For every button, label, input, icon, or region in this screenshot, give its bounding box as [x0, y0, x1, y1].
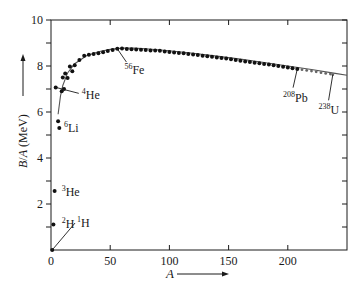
data-point: [82, 54, 86, 58]
y-axis-label: B/A (MeV): [16, 54, 30, 168]
data-point: [96, 51, 100, 55]
data-point: [196, 53, 200, 57]
data-point: [144, 48, 148, 52]
annotation-label: 2H: [62, 216, 75, 231]
data-point: [243, 59, 247, 63]
annotation-label: 4He: [82, 87, 100, 102]
annotation-2H: 2H: [62, 216, 75, 231]
data-point: [215, 56, 219, 60]
data-point: [257, 61, 261, 65]
data-point: [163, 50, 167, 54]
x-axis-label-text: A: [165, 266, 174, 281]
data-point: [186, 52, 190, 56]
y-tick-label: 8: [37, 59, 43, 73]
data-point: [101, 50, 105, 54]
data-point: [63, 71, 67, 75]
data-point: [210, 55, 214, 59]
annotation-leader: [293, 69, 297, 88]
data-point: [272, 63, 276, 67]
data-point: [56, 119, 60, 123]
data-point: [182, 51, 186, 55]
data-point: [61, 76, 65, 80]
data-point: [158, 49, 162, 53]
annotation-leader: [329, 75, 333, 101]
data-point: [139, 48, 143, 52]
x-axis-arrowhead-icon: [222, 272, 229, 277]
data-point: [220, 56, 224, 60]
data-point: [324, 72, 327, 75]
data-point: [177, 51, 181, 55]
annotation-leader: [56, 87, 79, 93]
annotation-leader: [117, 49, 126, 62]
data-point: [153, 49, 157, 53]
data-point: [281, 65, 285, 69]
data-point: [172, 50, 176, 54]
data-point: [238, 59, 242, 63]
x-tick-label: 50: [104, 254, 116, 268]
data-point: [87, 53, 91, 57]
annotation-label: 1H: [77, 215, 90, 230]
annotation-label: 208Pb: [283, 90, 308, 105]
data-point: [305, 69, 308, 72]
annotation-6Li: 6Li: [64, 120, 79, 135]
data-point: [310, 70, 313, 73]
data-point: [315, 70, 318, 73]
y-tick-label: 2: [37, 197, 43, 211]
data-point: [149, 48, 153, 52]
data-point: [253, 61, 257, 65]
annotation-56Fe: 56Fe: [117, 49, 144, 77]
data-point: [70, 69, 74, 73]
nuclide-annotations: 1H2H3He4He6Li56Fe208Pb238U: [52, 49, 339, 250]
data-point: [106, 49, 110, 53]
annotation-label: 56Fe: [124, 62, 144, 77]
data-point: [248, 60, 252, 64]
y-axis-arrowhead-icon: [21, 54, 26, 61]
data-point: [57, 126, 61, 130]
data-point: [286, 66, 290, 70]
data-point: [130, 47, 134, 51]
data-point: [234, 58, 238, 62]
data-point: [276, 64, 280, 68]
data-points: [50, 47, 334, 253]
data-point: [205, 54, 209, 58]
data-point: [92, 52, 96, 56]
data-point: [191, 53, 195, 57]
data-point: [267, 63, 271, 67]
annotation-label: 3He: [62, 184, 80, 199]
data-point: [68, 65, 72, 69]
x-axis-label: A: [165, 266, 229, 281]
data-point: [53, 189, 57, 193]
y-axis-label-text: B/A (MeV): [16, 114, 30, 168]
y-tick-label: 10: [31, 13, 43, 27]
data-point: [320, 71, 323, 74]
data-point: [224, 57, 228, 61]
data-point: [301, 68, 304, 71]
data-point: [120, 47, 124, 51]
y-tick-label: 6: [37, 105, 43, 119]
data-point: [329, 73, 332, 76]
annotation-238U: 238U: [319, 75, 340, 118]
y-tick-label: 4: [37, 151, 43, 165]
binding-energy-chart: 050100150200246810 1H2H3He4He6Li56Fe208P…: [0, 0, 364, 289]
data-point: [73, 63, 77, 67]
data-point: [51, 223, 55, 227]
data-point: [125, 47, 129, 51]
data-point: [291, 66, 295, 70]
annotation-label: 238U: [319, 102, 340, 117]
data-point: [167, 50, 171, 54]
data-point: [77, 58, 81, 62]
annotation-3He: 3He: [62, 184, 80, 199]
data-point: [229, 57, 233, 61]
data-point: [134, 47, 138, 51]
data-point: [66, 76, 70, 80]
x-tick-label: 0: [48, 254, 54, 268]
x-tick-label: 200: [279, 254, 297, 268]
data-point: [201, 54, 205, 58]
annotation-label: 6Li: [64, 120, 79, 135]
annotation-208Pb: 208Pb: [283, 69, 308, 105]
data-point: [111, 48, 115, 52]
x-tick-label: 150: [220, 254, 238, 268]
data-point: [262, 62, 266, 66]
